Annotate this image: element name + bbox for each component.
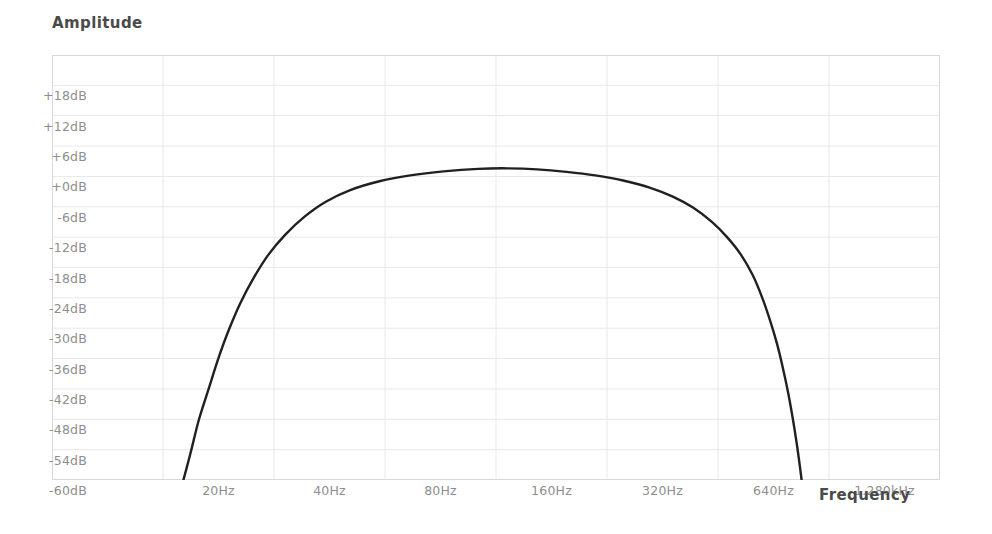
y-axis-tick-label: +12dB — [25, 119, 87, 134]
y-axis-tick-label: +0dB — [25, 179, 87, 194]
y-axis-tick-label: -30dB — [25, 331, 87, 346]
y-axis-tick-label: -42dB — [25, 392, 87, 407]
x-axis-tick-label: 160Hz — [492, 483, 612, 498]
y-axis-tick-label: -12dB — [25, 240, 87, 255]
y-axis-tick-label: +18dB — [25, 88, 87, 103]
y-axis-tick-label: -48dB — [25, 422, 87, 437]
plot-area — [52, 55, 940, 480]
y-axis-tick-label: +6dB — [25, 149, 87, 164]
y-axis-tick-label: -6dB — [25, 210, 87, 225]
y-axis-tick-label: -36dB — [25, 362, 87, 377]
x-axis-tick-label: 40Hz — [270, 483, 390, 498]
y-axis-tick-label: -24dB — [25, 301, 87, 316]
y-axis-title: Amplitude — [52, 14, 143, 32]
x-axis-tick-label: 320Hz — [603, 483, 723, 498]
x-axis-tick-label: 20Hz — [159, 483, 279, 498]
x-axis-tick-label: 640Hz — [714, 483, 834, 498]
y-axis-tick-label: -18dB — [25, 271, 87, 286]
response-curve — [52, 55, 940, 480]
frequency-response-chart: Amplitude +18dB+12dB+6dB+0dB-6dB-12dB-18… — [0, 0, 992, 534]
y-axis-tick-label: -54dB — [25, 453, 87, 468]
x-axis-title: Frequency — [819, 486, 910, 504]
y-axis-tick-label: -60dB — [25, 483, 87, 498]
x-axis-tick-label: 80Hz — [381, 483, 501, 498]
